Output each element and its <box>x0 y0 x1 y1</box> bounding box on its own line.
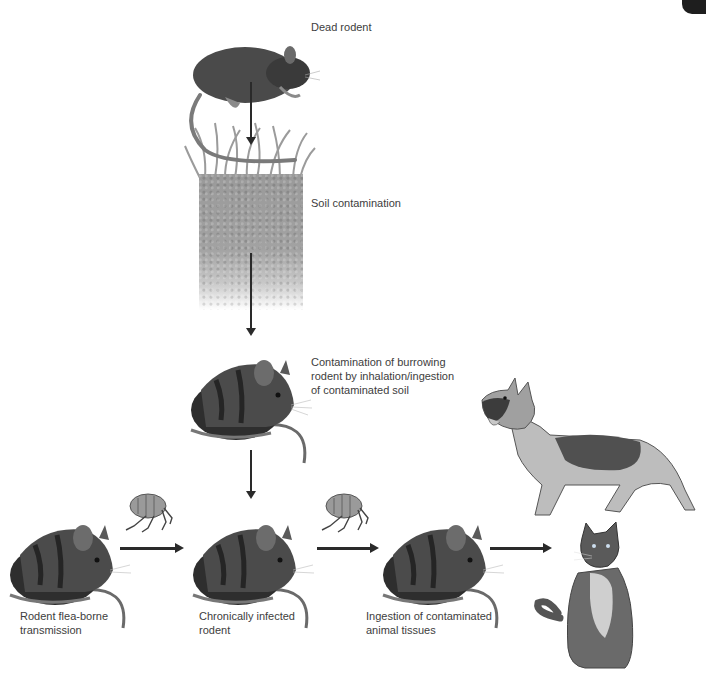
soil-label: Soil contamination <box>311 196 401 210</box>
flea-icon <box>124 492 176 536</box>
flea-icon <box>320 492 372 536</box>
arrow-soil-to-burrowing <box>250 253 252 329</box>
dog-icon <box>470 360 706 520</box>
dead-rodent-label: Dead rodent <box>311 20 372 34</box>
arrow-dead-to-soil <box>250 82 252 138</box>
corner-tab <box>682 0 706 14</box>
burrowing-label: Contamination of burrowing rodent by inh… <box>311 355 454 397</box>
cat-icon <box>530 518 650 676</box>
arrow-burrowing-to-chronic <box>250 450 252 492</box>
arrow-chronic-to-ingestion <box>317 547 371 550</box>
arrow-flea-to-chronic <box>120 547 176 550</box>
chronic-label: Chronically infected rodent <box>199 609 295 637</box>
mouse-icon <box>186 345 316 465</box>
ingestion-label: Ingestion of contaminated animal tissues <box>366 609 492 637</box>
flea-borne-label: Rodent flea-borne transmission <box>20 609 108 637</box>
